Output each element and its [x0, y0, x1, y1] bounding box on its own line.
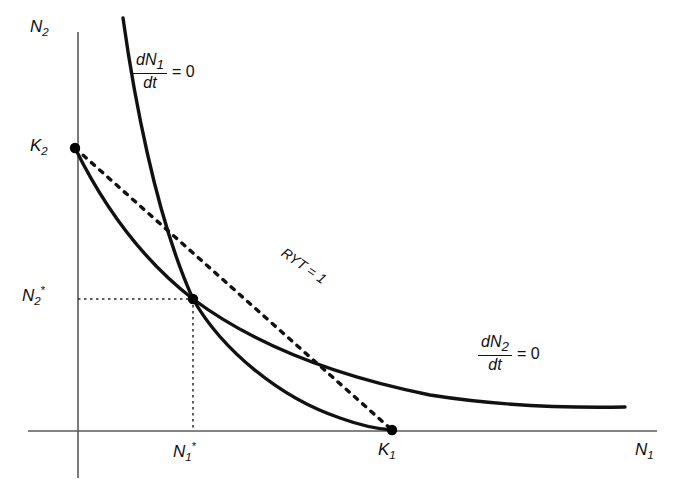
- plot-canvas: [0, 0, 684, 496]
- ryt-dashed-line: [75, 148, 392, 430]
- fraction-numerator: dN2: [478, 334, 512, 355]
- tick-label-k2: K2: [30, 137, 48, 158]
- tick-label-n1-star: N1*: [173, 441, 196, 464]
- point-equilibrium: [188, 294, 198, 304]
- point-k1: [387, 425, 397, 435]
- fraction-equals-zero: = 0: [172, 63, 195, 81]
- fraction-numerator: dN1: [133, 52, 167, 73]
- curve-label-dn2-dt: dN2 dt = 0: [478, 334, 540, 374]
- y-axis-label: N2: [30, 18, 49, 39]
- fraction-equals-zero: = 0: [517, 345, 540, 363]
- tick-label-k1: K1: [378, 441, 396, 462]
- competition-isocline-figure: N2 N1 K2 K1 N2* N1* dN1 dt = 0 dN2 dt = …: [0, 0, 684, 496]
- x-axis-label: N1: [635, 441, 654, 462]
- isocline-dn2-dt: [75, 148, 625, 407]
- curve-label-dn1-dt: dN1 dt = 0: [133, 52, 195, 92]
- fraction-dn1-dt: dN1 dt: [133, 52, 167, 92]
- tick-label-n2-star: N2*: [22, 285, 45, 308]
- fraction-denominator: dt: [133, 73, 167, 92]
- point-k2: [70, 143, 80, 153]
- fraction-denominator: dt: [478, 355, 512, 374]
- fraction-dn2-dt: dN2 dt: [478, 334, 512, 374]
